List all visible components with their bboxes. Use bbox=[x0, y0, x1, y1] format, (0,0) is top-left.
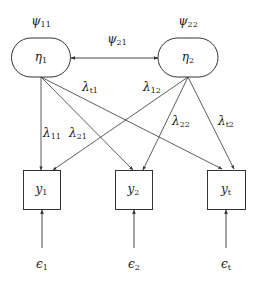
loading-label-lambda12: λ12 bbox=[143, 81, 161, 95]
observed-label-y2: y2 bbox=[128, 183, 140, 197]
variance-label-psi11: ψ11 bbox=[31, 15, 51, 29]
loading-label-lambdat2: λt2 bbox=[218, 115, 234, 129]
error-label-eps1: ϵ1 bbox=[36, 258, 48, 272]
loading-arrow-lambda12 bbox=[53, 77, 188, 170]
loading-label-lambda21: λ21 bbox=[69, 127, 87, 141]
covariance-label-psi21: ψ21 bbox=[107, 33, 127, 47]
edges-layer bbox=[41, 58, 234, 248]
observed-label-y1: y1 bbox=[36, 183, 48, 197]
observed-label-yt: yt bbox=[221, 183, 231, 197]
latent-label-eta2: η2 bbox=[182, 51, 194, 65]
latent-label-eta1: η1 bbox=[35, 51, 47, 65]
error-label-eps2: ϵ2 bbox=[128, 258, 140, 272]
sem-diagram: η1η2y1y2ytψ11ψ22ψ21λ11λ21λt1λ12λ22λt2ϵ1ϵ… bbox=[0, 0, 253, 286]
loading-label-lambda22: λ22 bbox=[172, 115, 190, 129]
loading-label-lambdat1: λt1 bbox=[82, 81, 98, 95]
error-label-epst: ϵt bbox=[221, 258, 231, 272]
loading-label-lambda11: λ11 bbox=[43, 127, 61, 141]
variance-label-psi22: ψ22 bbox=[178, 15, 198, 29]
